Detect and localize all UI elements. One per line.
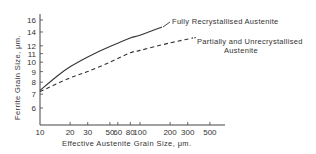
x-tick-label: 200 <box>163 128 177 137</box>
y-axis-ticks: 67891011121416 <box>27 16 43 113</box>
x-tick-label: 60 <box>113 128 122 137</box>
y-tick-label: 6 <box>32 104 37 113</box>
x-axis-ticks: 102030506080100200300500 <box>36 122 218 137</box>
axes <box>40 14 225 125</box>
series-lines <box>40 22 196 92</box>
y-tick-label: 7 <box>32 90 37 99</box>
x-tick-label: 30 <box>83 128 92 137</box>
series-label-partially-unrecrystallised-line2: Austenite <box>224 46 258 55</box>
series-line-fully-recrystallised <box>40 27 162 90</box>
y-tick-label: 8 <box>32 78 37 87</box>
y-tick-label: 9 <box>32 68 37 77</box>
leader-line-fully <box>163 22 170 27</box>
y-tick-label: 12 <box>27 42 36 51</box>
x-tick-label: 10 <box>36 128 45 137</box>
y-axis-title: Ferrite Grain Size, μm. <box>13 35 22 120</box>
y-tick-label: 10 <box>27 58 36 67</box>
series-label-fully-recrystallised: Fully Recrystallised Austenite <box>172 17 279 26</box>
series-label-partially-unrecrystallised-line1: Partially and Unrecrystallised <box>197 37 303 46</box>
line-chart: 67891011121416 102030506080100200300500 … <box>0 0 316 154</box>
x-axis-title: Effective Austenite Grain Size, μm. <box>62 139 192 148</box>
y-tick-label: 11 <box>28 50 37 59</box>
series-line-partially-unrecrystallised <box>40 38 193 92</box>
y-tick-label: 16 <box>27 16 36 25</box>
x-tick-label: 500 <box>203 128 217 137</box>
x-tick-label: 100 <box>133 128 147 137</box>
y-tick-label: 14 <box>27 28 36 37</box>
x-tick-label: 20 <box>66 128 75 137</box>
x-tick-label: 300 <box>181 128 195 137</box>
